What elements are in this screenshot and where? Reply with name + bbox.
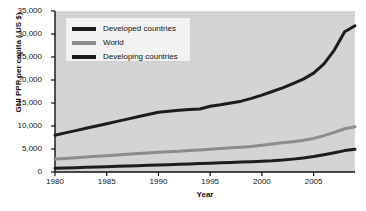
line-chart-figure: 05,00010,00015,00020,00025,00030,00035,0…: [0, 0, 366, 211]
legend-item-developing: Developing countries: [72, 50, 184, 63]
legend-label-developed: Developed countries: [103, 25, 176, 33]
y-tick-label: 5,000: [22, 145, 42, 153]
x-tick-label: 1995: [201, 178, 219, 186]
legend-swatch-developing: [72, 55, 96, 59]
legend-swatch-world: [72, 41, 96, 45]
x-tick-label: 2000: [253, 178, 271, 186]
x-tick-label: 2005: [305, 178, 323, 186]
chart-screenshot: 05,00010,00015,00020,00025,00030,00035,0…: [0, 0, 366, 211]
x-tick-label: 1990: [150, 178, 168, 186]
legend-label-world: World: [103, 39, 124, 47]
x-axis-title: Year: [55, 190, 355, 199]
chart-legend: Developed countries World Developing cou…: [65, 17, 191, 62]
legend-swatch-developed: [72, 27, 96, 31]
x-tick-label: 1985: [98, 178, 116, 186]
y-tick-label: 0: [38, 168, 42, 176]
x-tick-label: 1980: [46, 178, 64, 186]
y-axis-title: GNI PPP per capita ( US $): [14, 0, 23, 133]
y-axis-tick-labels: 05,00010,00015,00020,00025,00030,00035,0…: [0, 0, 51, 211]
legend-item-world: World: [72, 36, 184, 49]
legend-label-developing: Developing countries: [103, 53, 178, 61]
legend-item-developed: Developed countries: [72, 22, 184, 35]
